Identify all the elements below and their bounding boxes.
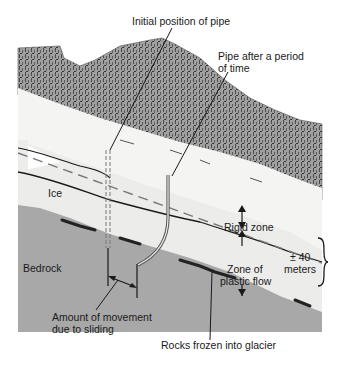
label-ice: Ice [48,187,62,199]
label-rigid-zone: Rigid zone [224,221,274,233]
label-sliding-2: due to sliding [52,323,114,335]
glacier-diagram: Initial position of pipe Pipe after a pe… [0,0,341,366]
label-plastic-1: Zone of [227,263,263,275]
label-depth-1: ± 40 [290,251,310,263]
label-plastic-2: plastic flow [220,275,271,287]
label-pipe-after-1: Pipe after a period [218,50,304,62]
label-initial-pipe: Initial position of pipe [132,15,230,27]
label-rocks: Rocks frozen into glacier [161,339,276,351]
label-depth-2: meters [284,263,316,275]
label-bedrock: Bedrock [23,262,62,274]
label-sliding-1: Amount of movement [52,311,152,323]
label-pipe-after-2: of time [218,62,250,74]
